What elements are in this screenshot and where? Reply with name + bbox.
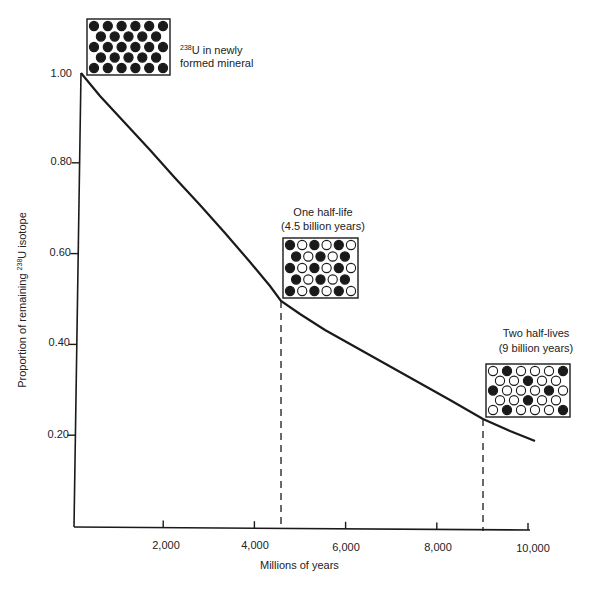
decayed-atom-icon — [502, 386, 511, 395]
annotation-start-text: U in newly — [192, 44, 243, 56]
uranium-atom-icon — [292, 252, 301, 261]
y-tick-label: 0.60 — [31, 245, 71, 259]
decayed-atom-icon — [530, 386, 539, 395]
decayed-atom-icon — [298, 240, 307, 249]
uranium-atom-icon — [334, 263, 343, 272]
decayed-atom-icon — [516, 405, 525, 414]
uranium-atom-icon — [334, 240, 343, 249]
uranium-atom-icon — [110, 53, 119, 62]
decayed-atom-icon — [346, 286, 355, 295]
decayed-atom-icon — [509, 396, 518, 405]
uranium-atom-icon — [158, 63, 167, 72]
uranium-atom-icon — [310, 240, 319, 249]
half-life-reference-lines — [281, 301, 483, 531]
decayed-atom-icon — [509, 376, 518, 385]
x-axis-label: Millions of years — [260, 558, 339, 572]
x-tick-label: 10,000 — [503, 541, 563, 555]
x-axis — [74, 527, 530, 530]
y-tick-label: 0.40 — [30, 335, 70, 349]
uranium-atom-icon — [285, 286, 294, 295]
decayed-atom-icon — [530, 366, 539, 375]
decayed-atom-icon — [346, 263, 355, 272]
uranium-atom-icon — [158, 21, 167, 30]
uranium-atom-icon — [316, 252, 325, 261]
uranium-atom-icon — [285, 240, 294, 249]
mineral-box-two-half-lives — [486, 364, 570, 417]
uranium-atom-icon — [145, 42, 154, 51]
uranium-atom-icon — [124, 53, 133, 62]
uranium-atom-icon — [340, 252, 349, 261]
uranium-atom-icon — [292, 275, 301, 284]
uranium-atom-icon — [145, 21, 154, 30]
uranium-atom-icon — [103, 42, 112, 51]
uranium-atom-icon — [558, 405, 567, 414]
decayed-atom-icon — [544, 405, 553, 414]
uranium-atom-icon — [502, 405, 511, 414]
decayed-atom-icon — [495, 376, 504, 385]
decayed-atom-icon — [328, 275, 337, 284]
uranium-atom-icon — [340, 275, 349, 284]
annotation-start-line1: 238U in newly — [180, 41, 242, 57]
decayed-atom-icon — [298, 263, 307, 272]
uranium-atom-icon — [138, 32, 147, 41]
uranium-atom-icon — [152, 53, 161, 62]
y-axis — [74, 73, 81, 527]
decayed-atom-icon — [544, 366, 553, 375]
decayed-atom-icon — [516, 366, 525, 375]
uranium-atom-icon — [96, 53, 105, 62]
uranium-atom-icon — [310, 286, 319, 295]
decayed-atom-icon — [551, 396, 560, 405]
uranium-atom-icon — [117, 42, 126, 51]
annotation-start-line2: formed mineral — [180, 56, 253, 70]
x-tick-label: 4,000 — [225, 538, 285, 552]
annotation-two-half-lives-line1: Two half-lives — [486, 326, 586, 340]
uranium-atom-icon — [488, 386, 497, 395]
annotation-two-half-lives-line2: (9 billion years) — [486, 341, 586, 355]
decayed-atom-icon — [537, 396, 546, 405]
decayed-atom-icon — [488, 366, 497, 375]
mineral-box-frame — [486, 364, 570, 417]
uranium-atom-icon — [117, 21, 126, 30]
uranium-atom-icon — [131, 21, 140, 30]
decayed-atom-icon — [322, 263, 331, 272]
uranium-atom-icon — [145, 63, 154, 72]
chart-canvas — [0, 0, 591, 591]
mineral-box-frame — [87, 19, 170, 75]
y-tick-label: 1.00 — [32, 66, 72, 80]
uranium-atom-icon — [103, 63, 112, 72]
uranium-atom-icon — [131, 42, 140, 51]
decayed-atom-icon — [304, 252, 313, 261]
uranium-atom-icon — [285, 263, 294, 272]
uranium-atom-icon — [158, 42, 167, 51]
y-axis-label-suffix: U isotope — [16, 212, 28, 258]
uranium-atom-icon — [89, 21, 98, 30]
uranium-atom-icon — [131, 63, 140, 72]
uranium-atom-icon — [523, 396, 532, 405]
decayed-atom-icon — [495, 396, 504, 405]
decayed-atom-icon — [304, 275, 313, 284]
x-tick-label: 8,000 — [408, 540, 468, 554]
uranium-atom-icon — [138, 53, 147, 62]
decayed-atom-icon — [516, 386, 525, 395]
decayed-atom-icon — [298, 286, 307, 295]
uranium-atom-icon — [544, 386, 553, 395]
uranium-atom-icon — [103, 21, 112, 30]
x-tick-label: 6,000 — [316, 540, 376, 554]
uranium-atom-icon — [334, 286, 343, 295]
decayed-atom-icon — [322, 240, 331, 249]
decayed-atom-icon — [322, 286, 331, 295]
y-tick-label: 0.80 — [32, 154, 72, 168]
uranium-atom-icon — [110, 32, 119, 41]
decayed-atom-icon — [551, 376, 560, 385]
decayed-atom-icon — [328, 252, 337, 261]
annotation-one-half-life-line2: (4.5 billion years) — [270, 219, 376, 233]
annotation-one-half-life-line1: One half-life — [270, 205, 376, 219]
uranium-atom-icon — [89, 42, 98, 51]
uranium-atom-icon — [310, 263, 319, 272]
uranium-atom-icon — [124, 32, 133, 41]
uranium-atom-icon — [558, 366, 567, 375]
decayed-atom-icon — [537, 376, 546, 385]
uranium-atom-icon — [117, 63, 126, 72]
y-axis-label-sup: 238 — [16, 259, 23, 271]
uranium-atom-icon — [89, 63, 98, 72]
